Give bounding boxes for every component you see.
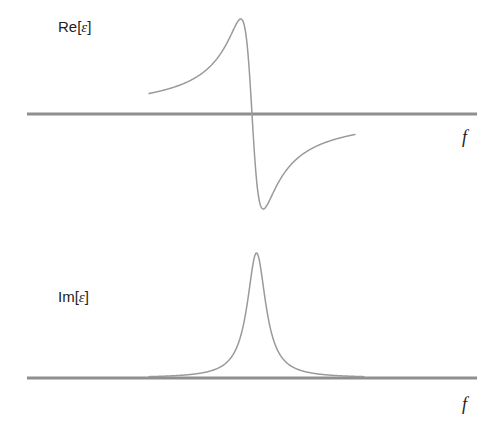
im-label-suffix: ]	[85, 288, 89, 305]
im-f-axis-label: f	[462, 394, 467, 415]
dielectric-response-diagram	[0, 0, 502, 433]
im-epsilon-label: Im[ε]	[58, 288, 89, 306]
re-label-suffix: ]	[87, 18, 91, 35]
re-epsilon-label: Re[ε]	[58, 18, 91, 36]
im-label-prefix: Im[	[58, 288, 79, 305]
re-label-prefix: Re[	[58, 18, 81, 35]
im-epsilon-curve	[149, 253, 365, 377]
re-f-axis-label: f	[462, 127, 467, 148]
